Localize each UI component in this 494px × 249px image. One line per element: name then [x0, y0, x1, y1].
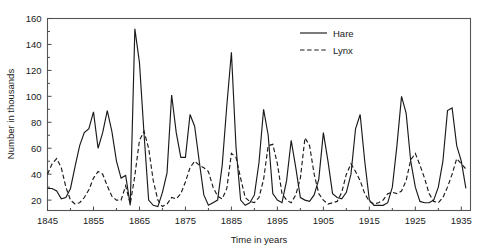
legend-label-lynx: Lynx — [333, 45, 353, 56]
y-tick-label: 140 — [26, 39, 42, 50]
x-tick-label: 1925 — [405, 215, 426, 226]
hare-lynx-population-chart: 20406080100120140160 1845185518651875188… — [0, 0, 494, 249]
x-tick-label: 1915 — [359, 215, 380, 226]
y-tick-label: 20 — [31, 195, 42, 206]
x-axis-ticks: 1845185518651875188518951905191519251935 — [37, 207, 472, 226]
y-tick-label: 160 — [26, 13, 42, 24]
y-tick-label: 120 — [26, 65, 42, 76]
x-tick-label: 1935 — [451, 215, 472, 226]
x-tick-label: 1905 — [313, 215, 334, 226]
plot-frame — [48, 19, 471, 211]
y-tick-label: 60 — [31, 143, 42, 154]
y-tick-label: 80 — [31, 117, 42, 128]
series-line-hare — [48, 29, 466, 207]
x-tick-label: 1895 — [267, 215, 288, 226]
chart-svg: 20406080100120140160 1845185518651875188… — [0, 0, 494, 249]
x-tick-label: 1845 — [37, 215, 58, 226]
x-tick-label: 1865 — [129, 215, 150, 226]
legend-label-hare: Hare — [333, 28, 354, 39]
y-axis-title: Number in thousands — [5, 69, 16, 160]
x-tick-label: 1885 — [221, 215, 242, 226]
x-tick-label: 1875 — [175, 215, 196, 226]
x-axis-title: Time in years — [231, 234, 288, 245]
series-line-lynx — [48, 131, 466, 206]
y-tick-label: 40 — [31, 169, 42, 180]
y-tick-label: 100 — [26, 91, 42, 102]
chart-legend: Hare Lynx — [300, 28, 354, 56]
x-tick-label: 1855 — [83, 215, 104, 226]
